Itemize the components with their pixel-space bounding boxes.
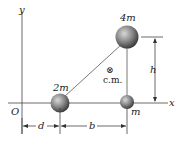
- y-axis-label: y: [18, 4, 25, 15]
- h-label: h: [150, 64, 156, 75]
- mass-4m-ball: [116, 26, 139, 49]
- physics-diagram: y x O 4m 2m m ⊗ c.m. h d b: [0, 0, 179, 142]
- x-axis-label: x: [169, 97, 175, 108]
- d-arrow-right: [54, 124, 59, 128]
- origin-label: O: [11, 106, 19, 117]
- b-label: b: [89, 120, 95, 131]
- d-label: d: [38, 120, 44, 131]
- mass-2m-label: 2m: [52, 82, 69, 93]
- center-of-mass-label: c.m.: [103, 75, 122, 85]
- d-arrow-left: [23, 124, 28, 128]
- center-of-mass-icon: ⊗: [106, 65, 114, 75]
- b-arrow-right: [121, 124, 126, 128]
- mass-4m-label: 4m: [119, 12, 136, 23]
- mass-m-label: m: [131, 106, 140, 117]
- h-arrow-down: [153, 97, 157, 102]
- h-arrow-up: [153, 38, 157, 43]
- b-arrow-left: [61, 124, 66, 128]
